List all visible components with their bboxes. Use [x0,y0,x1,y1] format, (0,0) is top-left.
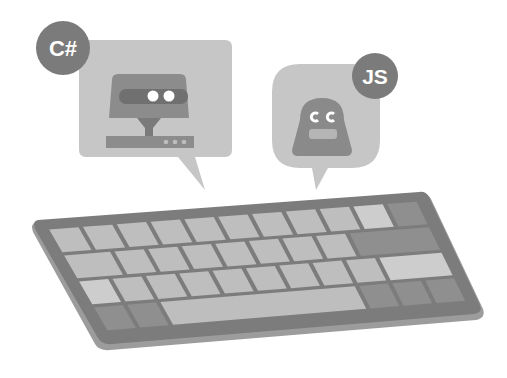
keyboard-key [379,253,452,280]
csharp-bot-icon [106,74,194,148]
js-badge-label: JS [362,65,388,88]
csharp-badge-label: C# [49,36,77,61]
bot-eye-right [164,91,175,102]
bot-eye-left [148,91,159,102]
js-chat-bubble: JS [272,53,398,190]
illustration: C# JS [0,0,507,378]
bot-dot-2 [173,140,178,145]
csharp-chat-bubble: C# [36,21,232,190]
js-badge: JS [352,53,398,99]
bot-dot-3 [182,140,187,145]
bot-mouth [309,129,337,139]
bot-dot-1 [164,140,169,145]
csharp-badge: C# [36,21,90,75]
keyboard [32,192,484,350]
bot-base [106,136,194,148]
